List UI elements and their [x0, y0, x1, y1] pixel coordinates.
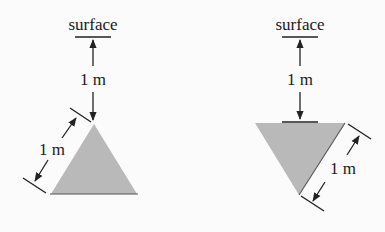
dim-tick-bottom-right	[301, 196, 324, 211]
right-figure: surface 1 m 1 m	[255, 15, 371, 211]
dim-tick-top-right	[348, 124, 371, 139]
side-label-left: 1 m	[39, 140, 65, 159]
side-label-right: 1 m	[330, 159, 356, 178]
side-arrow-up-left	[62, 118, 76, 138]
left-figure: surface 1 m 1 m	[23, 15, 138, 194]
diagram-canvas: surface 1 m 1 m surface 1 m 1 m	[0, 0, 385, 232]
side-arrow-down-right	[313, 182, 325, 201]
dim-tick-top-left	[70, 108, 91, 122]
side-arrow-down-left	[35, 160, 48, 181]
depth-label-right: 1 m	[287, 70, 313, 89]
depth-label-left: 1 m	[80, 70, 106, 89]
surface-label-right: surface	[275, 15, 324, 34]
side-arrow-up-right	[347, 136, 359, 155]
dim-tick-bottom-left	[23, 178, 46, 193]
surface-label-left: surface	[68, 15, 117, 34]
diagram-svg: surface 1 m 1 m surface 1 m 1 m	[0, 0, 385, 232]
